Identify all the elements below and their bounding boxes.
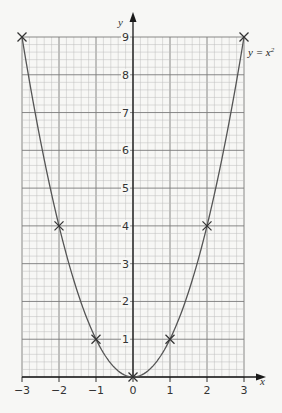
- y-tick-label: 9: [122, 31, 129, 44]
- x-tick-label: 1: [167, 384, 174, 397]
- x-tick-label: −2: [51, 384, 67, 397]
- y-tick-label: 7: [122, 107, 129, 120]
- x-tick-label: 0: [130, 384, 137, 397]
- y-tick-label: 2: [122, 295, 129, 308]
- x-tick-label: 3: [241, 384, 248, 397]
- y-tick-label: 5: [122, 182, 129, 195]
- x-tick-label: 2: [204, 384, 211, 397]
- x-tick-label: −1: [88, 384, 104, 397]
- curve-label-superscript: 2: [271, 46, 275, 54]
- x-axis-label: x: [259, 375, 265, 387]
- y-axis-label: y: [117, 16, 123, 28]
- curve-label: y = x2: [247, 46, 275, 58]
- y-tick-label: 8: [122, 69, 129, 82]
- tick-labels: −3−2−10123123456789: [14, 31, 248, 397]
- curve-label-text: y = x: [247, 46, 271, 58]
- y-tick-label: 6: [122, 144, 129, 157]
- parabola-chart: −3−2−10123123456789 x y y = x2: [0, 0, 282, 413]
- x-tick-label: −3: [14, 384, 30, 397]
- y-tick-label: 3: [122, 258, 129, 271]
- y-tick-label: 1: [122, 333, 129, 346]
- y-tick-label: 4: [122, 220, 129, 233]
